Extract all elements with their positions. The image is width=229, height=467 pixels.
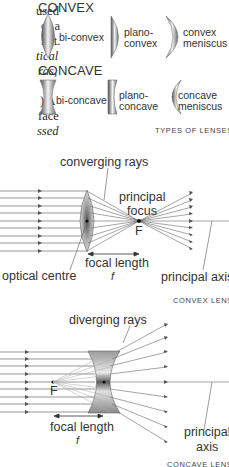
label-plano-convex-2: convex: [124, 38, 157, 49]
principal-axis-label-2: axis: [196, 440, 218, 454]
principal-axis-label-1: principal: [184, 425, 229, 439]
optical-centre-dot: [85, 219, 88, 222]
plano-convex-lens-icon: [111, 16, 119, 58]
label-plano-concave-2: concave: [119, 101, 158, 112]
axis-leader-line: [203, 221, 212, 270]
plano-concave-lens-icon: [108, 80, 117, 114]
label-bi-convex: bi-convex: [59, 32, 104, 43]
convex-meniscus-lens-icon: [166, 16, 178, 58]
concave-focal-length-arrow: [54, 414, 103, 418]
principal-focus-label-2: focus: [127, 204, 157, 218]
convex-heading: CONVEX: [38, 0, 94, 15]
label-concave-meniscus-2: meniscus: [178, 101, 222, 112]
focal-length-label-concave: focal length: [50, 420, 114, 434]
concave-optical-centre-dot: [102, 380, 105, 383]
bi-convex-lens-icon: [42, 14, 55, 58]
focal-symbol-concave: f: [76, 434, 79, 446]
diverging-leader-line: [123, 326, 130, 343]
convex-outgoing-arrowheads: [189, 191, 193, 250]
label-convex-meniscus-2: meniscus: [183, 38, 227, 49]
bi-concave-lens-icon: [40, 80, 56, 114]
diverging-rays-label: diverging rays: [69, 313, 147, 327]
convex-lens-caption: CONVEX LENS: [173, 296, 229, 305]
concave-lens-caption: CONCAVE LENS: [167, 460, 229, 467]
concave-axis-leader-line: [204, 382, 212, 430]
rays-leader-line: [104, 168, 108, 200]
concave-heading: CONCAVE: [38, 63, 103, 78]
convex-arrowheads: [38, 189, 42, 253]
focal-length-label-convex: focal length: [85, 256, 149, 270]
types-of-lenses-caption: TYPES OF LENSES: [155, 126, 229, 135]
focus-letter-concave: F: [50, 384, 58, 398]
focus-letter-convex: F: [135, 224, 143, 238]
label-bi-concave: bi-concave: [56, 95, 107, 106]
concave-arrowheads: [25, 350, 29, 414]
optical-centre-label: optical centre: [2, 269, 76, 283]
principal-focus-label-1: principal: [119, 190, 166, 204]
concave-incoming-rays: [0, 352, 95, 412]
focal-symbol-convex: f: [111, 270, 114, 282]
concave-outgoing-arrowheads: [164, 323, 168, 443]
converging-rays-label: converging rays: [60, 155, 148, 169]
centre-leader-line: [70, 225, 86, 270]
lens-diagram-graphics: [0, 0, 229, 467]
convex-incoming-rays: [0, 191, 87, 251]
principal-axis-label: principal axis: [161, 270, 229, 284]
principal-focus-dot: [137, 219, 141, 223]
